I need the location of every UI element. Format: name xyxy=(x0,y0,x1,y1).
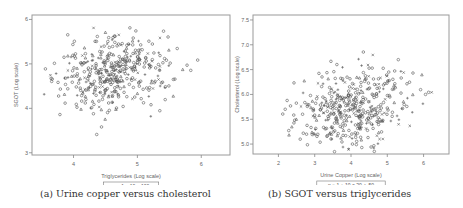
y-tick-label: 7.5 xyxy=(241,17,249,23)
x-tick-label: 5 xyxy=(386,160,389,166)
y-tick-label: 5.5 xyxy=(241,116,249,122)
panel-b: 234565.05.56.06.57.07.5Urine Copper (Log… xyxy=(232,0,463,208)
legend-text: n ○ 1 + 10 × 20 △ 50 xyxy=(328,182,374,185)
panel-a: 4563456Triglycerides (Log scale)SGOT (Lo… xyxy=(0,0,231,208)
y-tick-label: 6.5 xyxy=(241,67,249,73)
scatter-plot-b: 234565.05.56.06.57.07.5Urine Copper (Log… xyxy=(232,0,463,185)
x-axis-title: Urine Copper (Log scale) xyxy=(320,172,382,178)
x-axis-title: Triglycerides (Log scale) xyxy=(101,173,161,179)
caption-a: (a) Urine copper versus cholesterol xyxy=(40,188,211,199)
y-tick-label: 6.0 xyxy=(241,91,249,97)
x-tick-label: 3 xyxy=(313,160,316,166)
y-tick-label: 5 xyxy=(25,61,28,67)
y-tick-label: 3 xyxy=(25,150,28,156)
legend-text: n ○ 1 + 10 × 100 xyxy=(113,183,150,185)
x-tick-label: 4 xyxy=(349,160,352,166)
legend: n ○ 1 + 10 × 100 xyxy=(103,182,158,185)
caption-b: (b) SGOT versus triglycerides xyxy=(268,188,411,199)
x-tick-label: 2 xyxy=(277,160,280,166)
x-tick-label: 6 xyxy=(422,160,425,166)
plot-frame xyxy=(32,15,230,155)
y-tick-label: 5.0 xyxy=(241,141,249,147)
x-tick-label: 5 xyxy=(136,161,139,167)
y-axis-title: Cholesterol (Log scale) xyxy=(234,56,240,113)
y-tick-label: 6 xyxy=(25,16,28,22)
x-tick-label: 6 xyxy=(200,161,203,167)
y-axis-title: SGOT (Log scale) xyxy=(13,63,19,107)
y-tick-label: 7.0 xyxy=(241,42,249,48)
y-tick-label: 4 xyxy=(25,105,28,111)
legend: n ○ 1 + 10 × 20 △ 50 xyxy=(317,181,385,185)
x-tick-label: 4 xyxy=(72,161,75,167)
scatter-plot-a: 4563456Triglycerides (Log scale)SGOT (Lo… xyxy=(0,0,231,185)
